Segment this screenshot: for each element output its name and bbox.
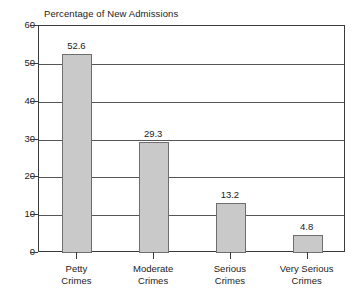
bar [293, 235, 323, 253]
x-axis-tick-mark [153, 252, 154, 259]
x-axis-category-label-line: Crimes [61, 275, 91, 287]
y-axis-tick-mark [30, 63, 38, 64]
x-axis-category-label: SeriousCrimes [214, 263, 246, 286]
y-axis-tick-mark [30, 139, 38, 140]
y-axis-tick-mark [30, 252, 38, 253]
x-axis-category-label: Very SeriousCrimes [280, 263, 334, 286]
x-axis-category-label-line: Crimes [280, 275, 334, 287]
x-axis-category-label-line: Crimes [214, 275, 246, 287]
y-axis-tick-mark [30, 214, 38, 215]
x-axis-tick-mark [76, 252, 77, 259]
bar-value-label: 52.6 [67, 40, 86, 51]
x-axis-category-label: ModerateCrimes [133, 263, 173, 286]
bar [139, 142, 169, 253]
bar-chart: Percentage of New Admissions 01020304050… [0, 0, 360, 299]
x-axis-category-label-line: Moderate [133, 263, 173, 275]
x-axis-category-label-line: Crimes [133, 275, 173, 287]
y-axis-tick-mark [30, 176, 38, 177]
x-axis-category-label-line: Serious [214, 263, 246, 275]
y-axis-tick-mark [30, 101, 38, 102]
bar [62, 54, 92, 253]
x-axis-category-label-line: Very Serious [280, 263, 334, 275]
plot-area [38, 25, 345, 252]
chart-title: Percentage of New Admissions [44, 8, 178, 20]
bar-value-label: 13.2 [221, 189, 240, 200]
x-axis-tick-mark [230, 252, 231, 259]
x-axis-category-label-line: Petty [61, 263, 91, 275]
x-axis-tick-mark [307, 252, 308, 259]
bar [216, 203, 246, 253]
bar-value-label: 4.8 [300, 221, 313, 232]
y-axis-tick-mark [30, 25, 38, 26]
bar-value-label: 29.3 [144, 128, 163, 139]
x-axis-category-label: PettyCrimes [61, 263, 91, 286]
